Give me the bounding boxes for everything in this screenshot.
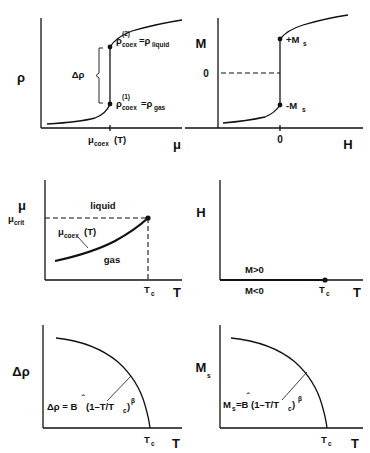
panel-delta-rho-vs-T-svg: Δρ T T c Δρ = B ˆ (1–T/T c ) β <box>0 300 185 453</box>
gas-branch-curve <box>47 104 110 124</box>
x-tick-mu-paren: (T) <box>114 134 126 145</box>
formula-leader-line <box>107 376 131 401</box>
panel-delta-rho-vs-T: Δρ T T c Δρ = B ˆ (1–T/T c ) β <box>0 300 185 453</box>
mu-coex-subscript: coex <box>64 232 79 239</box>
formula-M-symbol: M <box>223 399 231 410</box>
Tc-symbol: T <box>144 434 150 445</box>
panel-Ms-vs-T: M s T T c M s =B ˆ (1–T/T c ) β <box>185 300 370 453</box>
scaling-law-formula: Δρ = B ˆ (1–T/T c ) β <box>47 392 135 414</box>
liquid-label-rhs-subscript: liquid <box>152 41 169 49</box>
region-label-gas: gas <box>104 254 120 265</box>
y-axis-label-subscript: s <box>207 372 211 379</box>
y-axis-label-Ms: M s <box>196 360 211 379</box>
Tc-symbol: T <box>321 434 327 445</box>
x-axis-label-T: T <box>353 285 361 300</box>
x-tick-mu-subscript: coex <box>94 140 109 147</box>
x-axis-label-T: T <box>351 436 359 451</box>
region-label-liquid: liquid <box>90 200 116 211</box>
panel-mu-vs-T-svg: μ T μ crit T c liquid gas μ coex (T) <box>0 155 185 300</box>
x-tick-label-Tc: T c <box>321 434 332 447</box>
formula-close-paren: ) <box>292 399 295 410</box>
plus-Ms-label: +M s <box>286 34 307 47</box>
Tc-symbol: T <box>144 284 150 295</box>
Tc-subscript: c <box>326 290 330 297</box>
Tc-subscript: c <box>151 440 155 447</box>
x-tick-zero-label: 0 <box>277 134 283 145</box>
region-label-M-negative: M<0 <box>245 285 264 296</box>
liquid-label-superscript: (2) <box>122 30 130 38</box>
x-axis-label-mu: μ <box>173 137 181 152</box>
point-minus-Ms <box>278 103 283 108</box>
panel-H-vs-T-svg: H T M>0 M<0 T c <box>185 155 370 300</box>
liquid-label-equals-rho: =ρ <box>139 35 151 46</box>
liquid-label-subscript: coex <box>122 41 137 48</box>
scaling-law-formula: M s =B ˆ (1–T/T c ) β <box>223 390 302 412</box>
formula-body: (1–T/T <box>251 399 279 410</box>
delta-rho-brace <box>96 48 103 103</box>
y-axis-label-H: H <box>196 205 205 220</box>
region-label-M-positive: M>0 <box>245 264 264 275</box>
order-parameter-curve <box>231 338 327 428</box>
x-axis-label-T: T <box>172 436 180 451</box>
panel-M-vs-H-svg: M H 0 0 +M s -M s <box>185 0 370 155</box>
panel-H-vs-T: H T M>0 M<0 T c <box>185 155 370 300</box>
panel-mu-vs-T: μ T μ crit T c liquid gas μ coex (T) <box>0 155 185 300</box>
coexistence-point-gas <box>108 102 113 107</box>
coexistence-curve-label: μ coex (T) <box>58 226 96 239</box>
coexistence-label-leader <box>78 237 88 248</box>
formula-beta-exponent: β <box>131 397 135 405</box>
liquid-coexistence-label: ρ (2) coex =ρ liquid <box>116 30 169 49</box>
Tc-subscript: c <box>328 440 332 447</box>
gas-label-equals-rho: =ρ <box>141 98 153 109</box>
formula-left-hand-side: Δρ = B <box>47 401 78 412</box>
formula-body: (1–T/T <box>86 401 114 412</box>
minus-Ms-subscript: s <box>302 106 306 113</box>
formula-hat-accent: ˆ <box>247 390 251 401</box>
y-axis-label-rho: ρ <box>17 70 25 85</box>
mu-coex-paren: (T) <box>84 226 96 237</box>
panel-M-vs-H: M H 0 0 +M s -M s <box>185 0 370 155</box>
x-tick-label-Tc: T c <box>144 434 155 447</box>
y-axis-label-M: M <box>196 36 207 51</box>
gas-label-subscript: coex <box>122 104 137 111</box>
formula-close-paren: ) <box>127 401 130 412</box>
Tc-subscript: c <box>151 290 155 297</box>
x-tick-label-Tc: T c <box>319 284 330 297</box>
gas-coexistence-label: ρ (1) coex =ρ gas <box>116 93 166 112</box>
formula-beta-exponent: β <box>298 395 302 403</box>
x-tick-label-Tc: T c <box>144 284 155 297</box>
y-axis-label-M: M <box>196 360 207 375</box>
x-axis-label-H: H <box>343 137 352 152</box>
gas-label-superscript: (1) <box>122 93 130 101</box>
point-plus-Ms <box>278 37 283 42</box>
Tc-symbol: T <box>319 284 325 295</box>
formula-hat-accent: ˆ <box>82 392 86 403</box>
coexistence-point-liquid <box>108 45 113 50</box>
x-axis-label-T: T <box>173 285 181 300</box>
minus-Ms-label: -M s <box>286 100 306 113</box>
minus-Ms-text: -M <box>286 100 297 111</box>
panel-Ms-vs-T-svg: M s T T c M s =B ˆ (1–T/T c ) β <box>185 300 370 453</box>
x-tick-label-mu-coex: μ coex (T) <box>88 134 126 147</box>
plus-Ms-text: +M <box>286 34 300 45</box>
y-tick-zero-label: 0 <box>203 68 209 79</box>
gas-label-rhs-subscript: gas <box>154 104 166 112</box>
coexistence-curve <box>55 218 148 261</box>
panel-rho-vs-mu-svg: ρ μ Δρ ρ (2) coex =ρ liquid ρ (1) coex =… <box>0 0 185 155</box>
delta-rho-label: Δρ <box>72 69 85 80</box>
plus-Ms-subscript: s <box>303 40 307 47</box>
formula-leader-line <box>282 372 307 400</box>
figure-root: ρ μ Δρ ρ (2) coex =ρ liquid ρ (1) coex =… <box>0 0 370 453</box>
mu-crit-subscript: crit <box>14 219 25 226</box>
order-parameter-curve <box>56 338 150 428</box>
y-tick-label-mu-crit: μ crit <box>8 213 25 226</box>
critical-point <box>322 277 327 282</box>
lower-magnetization-branch <box>223 105 280 123</box>
panel-rho-vs-mu: ρ μ Δρ ρ (2) coex =ρ liquid ρ (1) coex =… <box>0 0 185 155</box>
y-axis-label-delta-rho: Δρ <box>12 364 29 379</box>
y-axis-label-mu: μ <box>18 198 26 213</box>
